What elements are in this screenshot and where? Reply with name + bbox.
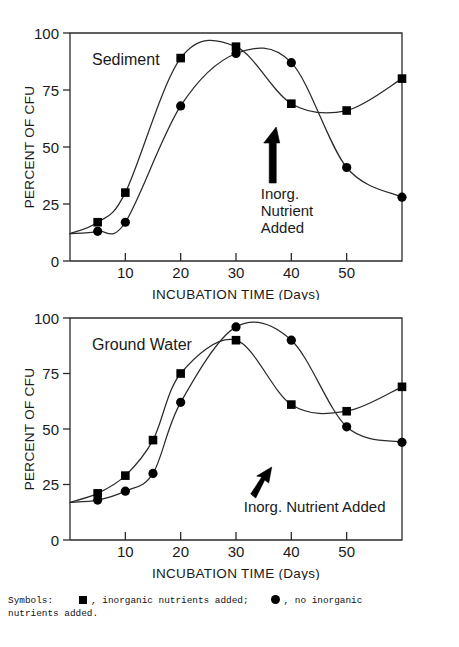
data-point-square xyxy=(287,400,296,409)
sediment-chart-svg: 02550751001020304050INCUBATION TIME (Day… xyxy=(0,0,459,300)
figure-caption-line2: nutrients added. xyxy=(8,608,98,619)
y-tick-label: 100 xyxy=(34,25,59,42)
y-tick-label: 25 xyxy=(42,476,59,493)
x-tick-label: 10 xyxy=(117,543,134,560)
data-point-square xyxy=(176,369,185,378)
data-point-square xyxy=(398,74,407,83)
up-arrow-icon xyxy=(264,127,280,183)
annotation-line: Added xyxy=(261,219,304,236)
data-point-circle xyxy=(342,163,351,172)
legend-circle-icon xyxy=(271,595,280,604)
data-point-circle xyxy=(176,101,185,110)
data-point-circle xyxy=(231,49,240,58)
data-point-circle xyxy=(93,227,102,236)
annotation-line: Inorg. xyxy=(261,185,299,202)
figure-two-panel-cfu-chart: 02550751001020304050INCUBATION TIME (Day… xyxy=(0,0,459,647)
series-markers xyxy=(93,336,406,498)
x-tick-label: 40 xyxy=(283,264,300,281)
series-curve xyxy=(70,48,402,234)
y-tick-label: 75 xyxy=(42,82,59,99)
data-point-square xyxy=(149,436,158,445)
chart-panel-groundwater: 02550751001020304050INCUBATION TIME (Day… xyxy=(0,290,459,580)
caption-prefix: Symbols: xyxy=(8,595,53,606)
data-point-circle xyxy=(121,487,130,496)
y-tick-label: 0 xyxy=(51,532,59,549)
panel-title: Ground Water xyxy=(92,336,193,353)
caption-circle-description: , no inorganic xyxy=(284,595,363,606)
caption-square-description: , inorganic nutrients added; xyxy=(91,595,249,606)
figure-caption: Symbols:, inorganic nutrients added;, no… xyxy=(8,594,453,608)
series-curve xyxy=(70,40,402,233)
x-tick-label: 10 xyxy=(117,264,134,281)
series-curve xyxy=(70,339,402,502)
y-tick-label: 0 xyxy=(51,253,59,270)
data-point-square xyxy=(176,54,185,63)
up-right-arrow-icon xyxy=(251,467,272,498)
data-point-circle xyxy=(397,438,406,447)
data-point-square xyxy=(342,407,351,416)
y-tick-label: 25 xyxy=(42,196,59,213)
panel-title: Sediment xyxy=(92,51,160,68)
series-markers xyxy=(93,42,406,226)
data-point-square xyxy=(121,471,130,480)
legend-square-icon xyxy=(79,596,87,604)
x-tick-label: 40 xyxy=(283,543,300,560)
y-tick-label: 50 xyxy=(42,139,59,156)
data-point-circle xyxy=(148,469,157,478)
y-axis-label: PERCENT OF CFU xyxy=(22,368,37,490)
data-point-square xyxy=(232,336,241,345)
data-point-square xyxy=(342,106,351,115)
data-point-square xyxy=(398,383,407,392)
x-tick-label: 50 xyxy=(338,264,355,281)
data-point-square xyxy=(121,188,130,197)
y-axis-label: PERCENT OF CFU xyxy=(22,86,37,208)
x-tick-label: 30 xyxy=(228,264,245,281)
x-axis-label: INCUBATION TIME (Days) xyxy=(152,566,320,580)
chart-panel-sediment: 02550751001020304050INCUBATION TIME (Day… xyxy=(0,0,459,300)
y-tick-label: 75 xyxy=(42,365,59,382)
annotation-line: Nutrient xyxy=(261,202,314,219)
annotation-line: Inorg. Nutrient Added xyxy=(244,498,386,515)
data-point-circle xyxy=(231,322,240,331)
x-tick-label: 50 xyxy=(338,543,355,560)
x-tick-label: 20 xyxy=(172,543,189,560)
data-point-circle xyxy=(93,495,102,504)
series-markers xyxy=(93,49,407,236)
x-tick-label: 20 xyxy=(172,264,189,281)
data-point-square xyxy=(287,99,296,108)
data-point-circle xyxy=(397,193,406,202)
y-tick-label: 50 xyxy=(42,421,59,438)
groundwater-chart-svg: 02550751001020304050INCUBATION TIME (Day… xyxy=(0,290,459,580)
data-point-circle xyxy=(121,218,130,227)
data-point-circle xyxy=(342,422,351,431)
data-point-circle xyxy=(287,58,296,67)
x-tick-label: 30 xyxy=(228,543,245,560)
data-point-circle xyxy=(176,398,185,407)
y-tick-label: 100 xyxy=(34,310,59,327)
data-point-circle xyxy=(287,336,296,345)
data-point-square xyxy=(93,218,102,227)
